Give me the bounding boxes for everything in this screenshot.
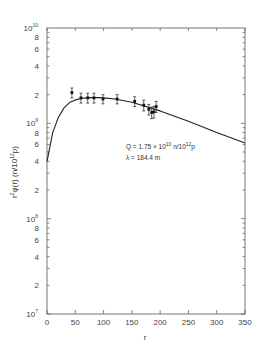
x-axis-ticks: 050100150200250300350 xyxy=(45,28,252,327)
y-major-tick-label: 1010 xyxy=(24,22,39,33)
y-tick-label: 2 xyxy=(35,91,40,100)
y-tick-label: 8 xyxy=(35,33,40,42)
x-tick-label: 300 xyxy=(210,318,224,327)
y-major-tick-label: 107 xyxy=(26,308,38,319)
y-tick-label: 6 xyxy=(35,45,40,54)
y-tick-label: 2 xyxy=(35,186,40,195)
marker xyxy=(80,96,83,99)
fit-line xyxy=(47,98,245,162)
marker xyxy=(147,108,150,111)
data-point xyxy=(116,95,119,104)
x-tick-label: 0 xyxy=(45,318,50,327)
x-tick-label: 50 xyxy=(71,318,80,327)
y-major-tick-label: 109 xyxy=(26,117,38,128)
y-tick-label: 6 xyxy=(35,140,40,149)
x-tick-label: 200 xyxy=(153,318,167,327)
data-point xyxy=(133,97,136,107)
marker xyxy=(142,104,145,107)
marker xyxy=(102,98,105,101)
marker xyxy=(133,100,136,103)
x-tick-label: 150 xyxy=(125,318,139,327)
fit-curve xyxy=(47,98,245,162)
data-point xyxy=(147,104,150,115)
annotation-q: Q = 1.75 × 1010 n/1012p xyxy=(126,141,195,151)
plot-frame xyxy=(47,28,245,314)
marker xyxy=(155,105,158,108)
data-point xyxy=(92,93,95,103)
x-tick-label: 100 xyxy=(97,318,111,327)
marker xyxy=(116,98,119,101)
data-point xyxy=(102,95,105,104)
x-tick-label: 350 xyxy=(238,318,252,327)
y-major-tick-label: 108 xyxy=(26,213,38,224)
y-tick-label: 4 xyxy=(35,157,40,166)
y-tick-label: 8 xyxy=(35,129,40,138)
data-point xyxy=(142,100,145,111)
data-point xyxy=(79,93,82,103)
y-tick-label: 4 xyxy=(35,253,40,262)
y-axis-label: r2φ(r) (n/1012p) xyxy=(9,146,19,198)
marker xyxy=(86,96,89,99)
x-axis-label: r xyxy=(144,333,147,342)
data-point xyxy=(70,88,73,98)
plot-border xyxy=(47,28,245,314)
y-tick-label: 4 xyxy=(35,62,40,71)
chart: 2468246824681071081091010 05010015020025… xyxy=(0,0,265,350)
x-tick-label: 250 xyxy=(182,318,196,327)
data-points xyxy=(70,88,157,119)
data-point xyxy=(86,93,89,103)
annotation-lambda: λ = 184.4 m xyxy=(126,154,160,161)
marker xyxy=(70,91,73,94)
y-axis-ticks: 2468246824681071081091010 xyxy=(24,22,245,319)
marker xyxy=(93,96,96,99)
y-tick-label: 8 xyxy=(35,224,40,233)
y-tick-label: 2 xyxy=(35,281,40,290)
y-tick-label: 6 xyxy=(35,236,40,245)
